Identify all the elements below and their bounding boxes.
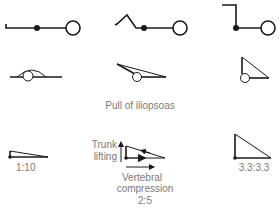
force-label-trunk: Trunk	[87, 139, 117, 150]
force-label-compression: compression	[112, 183, 178, 194]
ratio-label-2: 2:5	[130, 195, 160, 206]
figure-row1-left	[6, 21, 80, 35]
force-label-lifting: lifting	[87, 151, 117, 162]
ratio-label-1: 1:10	[16, 162, 35, 173]
ratio-label-3: 3.3:3.3	[232, 162, 276, 173]
force-label-vertebral: Vertebral	[116, 172, 168, 183]
figure-row2-right	[241, 57, 270, 83]
figure-row2-middle	[117, 64, 166, 82]
force-triangle-3-3	[233, 134, 271, 160]
figure-row1-right	[222, 5, 275, 35]
hip-joint-dot	[34, 25, 40, 31]
head-circle	[66, 21, 80, 35]
force-triangle-2-5	[121, 142, 165, 167]
force-triangle-1-10	[8, 151, 48, 159]
figure-row1-middle	[115, 15, 187, 35]
caption-pull-of-iliopsoas: Pull of iliopsoas	[90, 100, 190, 111]
figure-row2-left	[10, 70, 62, 81]
